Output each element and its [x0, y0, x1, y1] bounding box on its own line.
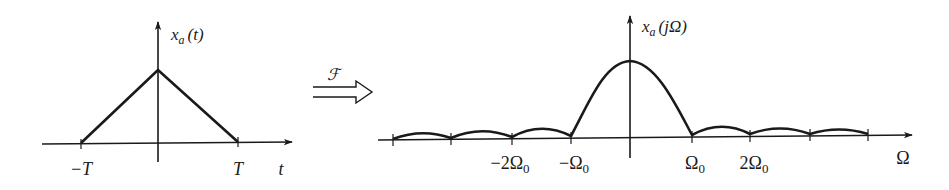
fourier-symbol: ℱ — [327, 66, 343, 83]
tick-label-2omega0: 2Ω0 — [740, 153, 769, 176]
omega-axis-label: Ω — [896, 148, 909, 168]
tick-label-neg-T: −T — [70, 159, 94, 179]
xa-jomega-label: xa(jΩ) — [641, 17, 687, 39]
fourier-transform-diagram: xa(t) −T T t ℱ xa(jΩ) −2Ω0 — [0, 0, 949, 190]
time-domain-plot: xa(t) −T T t — [42, 22, 292, 179]
xa-t-label: xa(t) — [170, 25, 204, 47]
tick-label-neg-2omega0: −2Ω0 — [490, 153, 529, 176]
t-axis — [42, 142, 292, 144]
double-arrow-icon — [313, 81, 372, 103]
tick-label-neg-omega0: −Ω0 — [559, 153, 589, 176]
tick-label-pos-T: T — [233, 159, 245, 179]
frequency-domain-plot: xa(jΩ) −2Ω0 −Ω0 Ω0 2Ω0 Ω — [378, 16, 912, 176]
fourier-transform-arrow: ℱ — [313, 66, 372, 103]
tick-label-omega0: Ω0 — [685, 153, 705, 176]
t-axis-label: t — [278, 159, 284, 179]
triangle-pulse — [81, 70, 238, 143]
